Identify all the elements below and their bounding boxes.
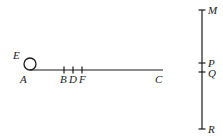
- point-label-c: C: [155, 74, 162, 85]
- geometry-figure: A B D F C E M P Q R: [0, 0, 223, 139]
- point-label-d: D: [69, 74, 77, 85]
- figure-canvas: [0, 0, 223, 139]
- circle-e: [24, 58, 36, 70]
- point-label-q: Q: [208, 68, 216, 79]
- point-label-f: F: [79, 74, 86, 85]
- point-label-m: M: [208, 5, 217, 16]
- point-label-a: A: [20, 74, 27, 85]
- point-label-b: B: [60, 74, 67, 85]
- point-label-e: E: [13, 50, 20, 61]
- point-label-r: R: [208, 124, 215, 135]
